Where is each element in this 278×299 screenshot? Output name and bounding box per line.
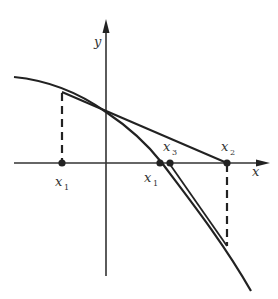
- y-axis-arrow-icon: [103, 19, 110, 33]
- y-axis-label: y: [93, 34, 102, 49]
- tangent-line-1: [62, 92, 227, 163]
- svg-text:x: x: [55, 174, 63, 189]
- svg-text:3: 3: [172, 148, 177, 157]
- svg-text:x: x: [221, 139, 229, 154]
- point-x3: [166, 159, 173, 166]
- y-axis: [103, 19, 110, 276]
- label-x2: x 2: [221, 139, 235, 157]
- svg-text:1: 1: [153, 179, 158, 188]
- svg-text:x: x: [163, 139, 171, 154]
- point-x2: [223, 159, 230, 166]
- tangent-line-2: [169, 163, 227, 246]
- label-root-x1: x 1: [144, 170, 158, 188]
- svg-text:2: 2: [230, 148, 235, 157]
- svg-text:1: 1: [64, 183, 69, 192]
- label-left-x1: x 1: [55, 174, 69, 192]
- x-axis-label: x: [252, 164, 260, 179]
- newton-method-diagram: y x x 1 x 1 x 3 x 2: [0, 0, 278, 299]
- x-axis: [14, 160, 270, 167]
- point-root-x1: [156, 159, 163, 166]
- svg-text:x: x: [144, 170, 152, 185]
- function-curve: [14, 77, 251, 291]
- point-left-x1: [58, 159, 65, 166]
